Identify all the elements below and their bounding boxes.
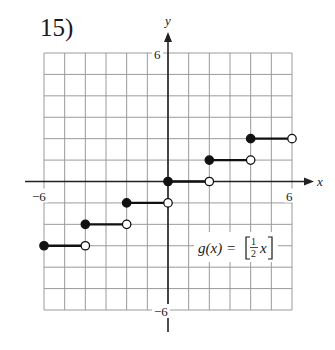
tick-y-max: 6 (154, 47, 161, 62)
open-dot-icon (246, 156, 254, 164)
closed-dot-icon (246, 134, 254, 142)
function-label-text: g(x) = (198, 240, 236, 257)
y-axis-arrow-icon (164, 32, 172, 42)
function-label: g(x) = 12x (194, 232, 278, 262)
fraction-den: 2 (251, 248, 256, 259)
y-axis-label: y (163, 13, 171, 28)
fraction-var: x (259, 240, 267, 256)
closed-dot-icon (205, 156, 213, 164)
open-dot-icon (164, 199, 172, 207)
open-dot-icon (205, 177, 213, 185)
tick-x-max: 6 (286, 189, 293, 204)
fraction-num: 1 (251, 236, 256, 247)
tick-labels: −666−6 (30, 47, 295, 319)
open-dot-icon (288, 134, 296, 142)
closed-dot-icon (122, 199, 130, 207)
x-axis-label: x (316, 174, 323, 189)
axes: xy (25, 13, 323, 332)
closed-dot-icon (81, 220, 89, 228)
step-function-graph: xy g(x) = 12x −666−6 (0, 0, 335, 350)
tick-y-min: −6 (154, 304, 168, 319)
x-axis-arrow-icon (304, 178, 314, 186)
closed-dot-icon (164, 177, 172, 185)
closed-dot-icon (40, 242, 48, 250)
tick-x-min: −6 (32, 189, 46, 204)
open-dot-icon (122, 220, 130, 228)
open-dot-icon (81, 242, 89, 250)
